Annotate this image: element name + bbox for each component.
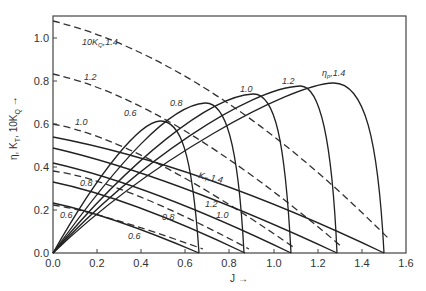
svg-text:η, KT, 10KQ →: η, KT, 10KQ → [8,96,22,160]
x-tick-labels: 0.0 0.2 0.4 0.6 0.8 1.0 1.2 1.4 1.6 [45,257,413,269]
y-axis-title: η, KT, 10KQ → [8,96,22,160]
curve-labels: 10KQ,1.4 1.2 1.0 0.8 0.6 0.6 0.8 1.0 1.2… [60,37,345,241]
svg-text:1.2: 1.2 [84,72,97,82]
svg-text:1.0: 1.0 [266,257,281,269]
svg-text:J: J [230,273,235,284]
svg-text:ηp,1.4: ηp,1.4 [322,68,345,79]
svg-text:0.6: 0.6 [128,231,141,241]
svg-text:0.8: 0.8 [34,75,49,87]
svg-text:1.6: 1.6 [398,257,413,269]
svg-text:0.8: 0.8 [170,98,183,108]
x-axis-title: J → [230,273,248,284]
svg-text:0.0: 0.0 [34,247,49,259]
eta-curve-1.0 [53,94,291,253]
svg-text:1.2: 1.2 [310,257,325,269]
svg-text:1.0: 1.0 [34,32,49,44]
svg-text:0.6: 0.6 [34,118,49,130]
svg-text:1.2: 1.2 [205,199,218,209]
10kq-curve-1.2 [53,74,342,247]
kt-curve-1.0 [53,163,291,253]
svg-text:1.0: 1.0 [240,84,253,94]
svg-text:1.0: 1.0 [216,210,229,220]
svg-text:1.0: 1.0 [75,117,88,127]
svg-text:0.4: 0.4 [34,161,49,173]
svg-text:→: → [238,273,248,284]
svg-text:0.6: 0.6 [60,210,73,220]
y-tick-labels: 0.0 0.2 0.4 0.6 0.8 1.0 [34,32,49,259]
svg-text:1.2: 1.2 [282,76,295,86]
svg-text:0.8: 0.8 [221,257,236,269]
kt-curve-1.2 [53,148,337,253]
svg-text:1.4: 1.4 [354,257,369,269]
svg-text:0.8: 0.8 [162,212,175,222]
kt-curves [53,137,384,253]
svg-text:0.8: 0.8 [80,178,93,188]
x-ticks [97,249,362,253]
svg-text:0.2: 0.2 [34,204,49,216]
eta-curve-1.4 [53,83,384,253]
svg-text:0.6: 0.6 [177,257,192,269]
eta-curves [53,83,384,253]
svg-text:0.4: 0.4 [133,257,148,269]
eta-curve-1.2 [53,86,337,253]
svg-text:10KQ,1.4: 10KQ,1.4 [82,37,118,48]
svg-text:0.6: 0.6 [124,108,137,118]
propeller-open-water-chart: 0.0 0.2 0.4 0.6 0.8 1.0 1.2 1.4 1.6 0.0 … [0,0,426,291]
svg-text:KT,1.4: KT,1.4 [197,170,223,186]
svg-text:0.2: 0.2 [89,257,104,269]
